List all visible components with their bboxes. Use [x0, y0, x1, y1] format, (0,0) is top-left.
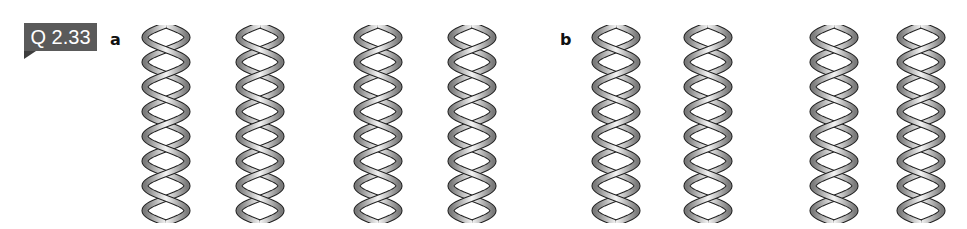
helix-b-4 — [893, 25, 949, 223]
helix-a-1 — [138, 25, 194, 223]
panel-label-a: a — [110, 30, 121, 49]
panel-label-b: b — [560, 30, 571, 49]
helix-b-3 — [806, 25, 862, 223]
helix-a-3 — [350, 25, 406, 223]
question-badge: Q 2.33 — [24, 23, 97, 51]
helix-a-2 — [232, 25, 288, 223]
helix-b-1 — [588, 25, 644, 223]
helix-b-2 — [680, 25, 736, 223]
question-badge-tail — [24, 51, 36, 59]
helix-a-4 — [444, 25, 500, 223]
